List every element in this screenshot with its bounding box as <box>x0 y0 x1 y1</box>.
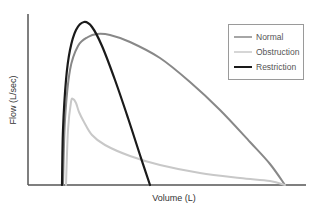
series-obstruction-line <box>66 98 285 185</box>
x-axis-label: Volume (L) <box>152 193 196 203</box>
legend: Normal Obstruction Restriction <box>229 25 304 80</box>
flow-volume-chart: Volume (L) Flow (L/sec) Normal Obstructi… <box>0 0 314 209</box>
legend-label-restriction: Restriction <box>256 62 296 72</box>
legend-label-obstruction: Obstruction <box>256 47 300 57</box>
y-axis-label: Flow (L/sec) <box>8 75 18 124</box>
legend-label-normal: Normal <box>256 32 284 42</box>
